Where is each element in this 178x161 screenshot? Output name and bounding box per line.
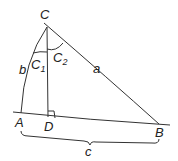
vertex-label-c: C <box>40 8 49 21</box>
side-label-a: a <box>93 62 100 75</box>
angle-label-c1-base: C <box>31 57 40 72</box>
angle-arc-c1 <box>33 52 47 53</box>
brace-c <box>21 131 159 145</box>
angle-label-c2-sub: 2 <box>62 57 67 67</box>
base-arc <box>13 112 170 125</box>
vertex-label-d: D <box>44 120 53 133</box>
vertex-label-b: B <box>155 126 164 139</box>
side-a-arc <box>44 23 159 124</box>
spherical-triangle-diagram <box>0 0 178 161</box>
angle-label-c1: C1 <box>31 58 45 74</box>
angle-label-c2-base: C <box>53 50 62 65</box>
angle-label-c2: C2 <box>53 51 67 67</box>
side-label-b: b <box>19 63 26 76</box>
side-label-c: c <box>85 145 92 158</box>
altitude-cd <box>47 27 48 117</box>
angle-arc-c2 <box>47 43 63 50</box>
right-angle-marker <box>48 111 55 118</box>
vertex-label-a: A <box>15 116 24 129</box>
angle-label-c1-sub: 1 <box>40 64 45 74</box>
